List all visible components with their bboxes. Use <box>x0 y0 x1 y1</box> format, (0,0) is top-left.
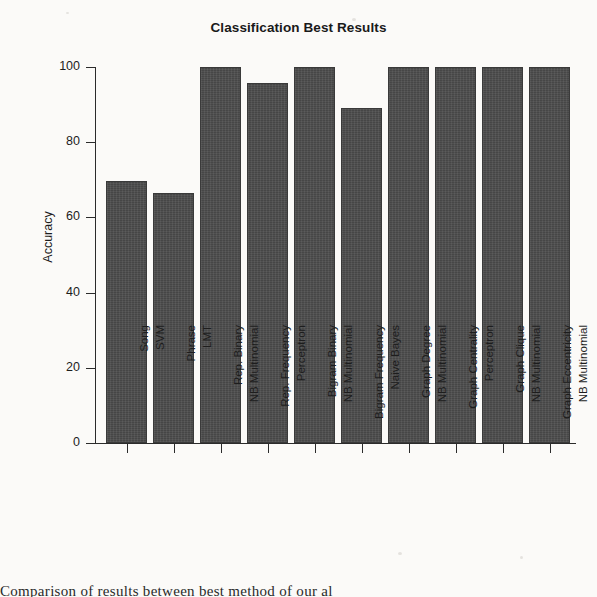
y-axis-tick-label: 100 <box>59 60 80 73</box>
y-axis-tick-label: 0 <box>73 436 80 449</box>
x-axis-tick <box>127 444 128 453</box>
x-axis-label-line2: NB Multinomial <box>340 325 356 457</box>
y-axis-line <box>95 67 96 443</box>
x-axis-label: Bigram BinaryNB Multinomial <box>324 325 358 457</box>
x-axis-label: Graph DegreeNB Multinomial <box>418 325 452 457</box>
x-axis-label-line2: Perceptron <box>293 325 309 457</box>
y-axis-tick <box>86 293 95 294</box>
scan-speck <box>352 18 356 21</box>
scan-speck <box>66 12 69 14</box>
x-axis-label-line2: Naive Bayes <box>387 325 403 457</box>
x-axis-tick <box>315 444 316 453</box>
x-axis-label-line2: SVM <box>152 325 168 457</box>
figure-chart-classification-best-results: Classification Best Results 020406080100… <box>0 0 597 597</box>
x-axis-label-line1: Graph Degree <box>418 325 434 457</box>
x-axis-label-line2: NB Multinomial <box>575 325 591 457</box>
y-axis-title: Accuracy <box>41 177 55 297</box>
x-axis-label-line1: Rep. Binary <box>230 325 246 457</box>
x-axis-label-line1: Rep. Frequency <box>277 325 293 457</box>
x-axis-label: Graph CentralityPerceptron <box>465 325 499 457</box>
x-axis-label-line2: NB Multinomial <box>246 325 262 457</box>
x-axis-label-line1: Song <box>136 325 152 457</box>
x-axis-label: PhraseLMT <box>183 325 217 457</box>
x-axis-label: SongSVM <box>136 325 170 457</box>
x-axis-label-line2: LMT <box>199 325 215 457</box>
x-axis-label-line1: Phrase <box>183 325 199 457</box>
y-axis-tick-label: 40 <box>66 286 80 299</box>
x-axis-label: Bigram FrequencyNaive Bayes <box>371 325 405 457</box>
x-axis-label-line2: NB Multinomial <box>434 325 450 457</box>
x-axis-tick <box>550 444 551 453</box>
caption-text: Comparison of results between best metho… <box>0 583 597 597</box>
y-axis-tick <box>86 217 95 218</box>
y-axis-tick-label: 20 <box>66 361 80 374</box>
x-axis-tick <box>268 444 269 453</box>
x-axis-tick <box>456 444 457 453</box>
y-axis-tick <box>86 142 95 143</box>
x-axis-tick <box>221 444 222 453</box>
y-axis-tick <box>86 67 95 68</box>
x-axis-label: Rep. BinaryNB Multinomial <box>230 325 264 457</box>
x-axis-tick <box>503 444 504 453</box>
x-axis-label: Rep. FrequencyPerceptron <box>277 325 311 457</box>
y-axis-tick-label: 60 <box>66 210 80 223</box>
x-axis-tick <box>409 444 410 453</box>
x-axis-label: Graph EccentricityNB Multinomial <box>559 325 593 457</box>
scan-speck <box>520 556 523 559</box>
x-axis-label-line2: NB Multinomial <box>528 325 544 457</box>
x-axis-label-line1: Bigram Frequency <box>371 325 387 457</box>
x-axis-label-line1: Graph Eccentricity <box>559 325 575 457</box>
x-axis-label-line1: Bigram Binary <box>324 325 340 457</box>
x-axis-label-line2: Perceptron <box>481 325 497 457</box>
y-axis-tick-label: 80 <box>66 135 80 148</box>
page-caption-fragment: Comparison of results between best metho… <box>0 583 597 597</box>
x-axis-tick <box>362 444 363 453</box>
x-axis-label-line1: Graph Centrality <box>465 325 481 457</box>
x-axis-label: Graph CliqueNB Multinomial <box>512 325 546 457</box>
x-axis-label-line1: Graph Clique <box>512 325 528 457</box>
scan-speck <box>398 552 402 555</box>
y-axis-tick <box>86 368 95 369</box>
x-axis-tick <box>174 444 175 453</box>
plot-area: 020406080100 Accuracy SongSVMPhraseLMTRe… <box>0 0 597 597</box>
y-axis-tick <box>86 443 95 444</box>
